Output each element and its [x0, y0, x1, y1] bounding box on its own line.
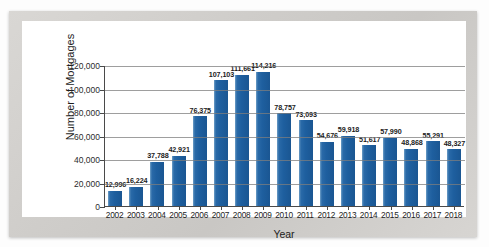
gridline: [105, 160, 465, 161]
bar-slot[interactable]: 42,921: [169, 65, 190, 206]
bar-slot[interactable]: 114,216: [253, 65, 274, 206]
chart-panel: Number of Mortgages 120,000100,00080,000…: [22, 21, 466, 217]
bar[interactable]: [256, 72, 270, 206]
bar-value-label: 37,788: [147, 151, 168, 160]
bar[interactable]: [299, 120, 313, 206]
x-axis-tick-label: 2018: [440, 210, 466, 220]
y-axis-tick-label: 40,000: [74, 155, 100, 165]
bar-slot[interactable]: 12,996: [105, 65, 126, 206]
bar[interactable]: [214, 80, 228, 206]
bar-slot[interactable]: 73,093: [296, 65, 317, 206]
bar-slot[interactable]: 59,918: [338, 65, 359, 206]
bar-value-label: 73,093: [295, 110, 316, 119]
bar[interactable]: [108, 191, 122, 206]
gridline: [105, 90, 465, 91]
bar[interactable]: [404, 149, 418, 206]
x-axis-title: Year: [104, 228, 464, 240]
y-axis-tick: [100, 90, 105, 91]
y-axis-tick-label: 80,000: [74, 108, 100, 118]
gridline: [105, 137, 465, 138]
y-axis-tick: [100, 160, 105, 161]
bar[interactable]: [193, 116, 207, 206]
bar-slot[interactable]: 51,617: [359, 65, 380, 206]
bar-slot[interactable]: 78,757: [274, 65, 295, 206]
bar-value-label: 78,757: [274, 103, 295, 112]
bar[interactable]: [172, 156, 186, 206]
bar[interactable]: [129, 187, 143, 206]
bar-slot[interactable]: 55,291: [423, 65, 444, 206]
bar-slot[interactable]: 111,661: [232, 65, 253, 206]
bar-slot[interactable]: 48,868: [401, 65, 422, 206]
bar-slot[interactable]: 16,224: [126, 65, 147, 206]
bar-slot[interactable]: 37,788: [147, 65, 168, 206]
bar-slot[interactable]: 48,327: [444, 65, 465, 206]
y-axis-tick-label: 100,000: [69, 85, 100, 95]
gridline: [105, 66, 465, 67]
y-axis-tick: [100, 184, 105, 185]
bar-slot[interactable]: 57,990: [380, 65, 401, 206]
cut-off-title: [0, 0, 489, 8]
bar-value-label: 59,918: [338, 125, 359, 134]
bar-value-label: 57,990: [380, 127, 401, 136]
bar-value-label: 55,291: [423, 131, 444, 140]
bar[interactable]: [447, 149, 461, 206]
bar-value-label: 12,996: [105, 180, 126, 189]
y-axis-tick-labels: 120,000100,00080,00060,00040,00020,0000: [46, 66, 100, 207]
bar-slot[interactable]: 76,375: [190, 65, 211, 206]
y-axis-tick: [100, 66, 105, 67]
gridline: [105, 113, 465, 114]
bar-slot[interactable]: 54,676: [317, 65, 338, 206]
chart-screenshot: Number of Mortgages 120,000100,00080,000…: [0, 0, 489, 247]
plot-area: 12,99616,22437,78842,92176,375107,103111…: [104, 66, 464, 207]
bar[interactable]: [362, 145, 376, 206]
bar-slot[interactable]: 107,103: [211, 65, 232, 206]
chart-frame: Number of Mortgages 120,000100,00080,000…: [9, 11, 477, 237]
bar-value-label: 48,868: [401, 138, 422, 147]
bar-value-label: 42,921: [168, 145, 189, 154]
y-axis-tick: [100, 137, 105, 138]
bar[interactable]: [235, 75, 249, 206]
bar[interactable]: [341, 136, 355, 206]
y-axis-tick-label: 60,000: [74, 132, 100, 142]
bar[interactable]: [426, 141, 440, 206]
bar[interactable]: [320, 142, 334, 206]
bar-value-label: 48,327: [444, 139, 465, 148]
y-axis-tick-label: 120,000: [69, 61, 100, 71]
bar-series: 12,99616,22437,78842,92176,375107,103111…: [105, 65, 465, 206]
y-axis-tick-label: 20,000: [74, 179, 100, 189]
y-axis-tick: [100, 113, 105, 114]
y-axis-tick: [100, 207, 105, 208]
gridline: [105, 184, 465, 185]
bar[interactable]: [383, 138, 397, 206]
